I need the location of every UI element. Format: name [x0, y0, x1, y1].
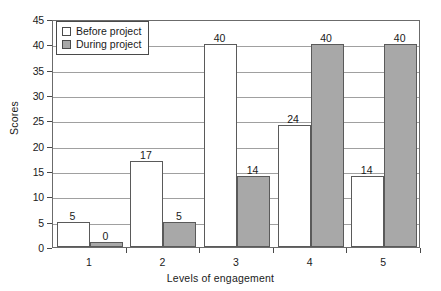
legend-item-during: During project	[62, 38, 141, 51]
bar-before-3	[204, 44, 237, 247]
y-tick-label: 30	[33, 91, 44, 101]
y-tick-label: 20	[33, 142, 44, 152]
y-tick-label: 15	[33, 167, 44, 177]
bar-value-label: 40	[197, 32, 243, 44]
x-axis-title: Levels of engagement	[0, 272, 441, 284]
y-tick-label: 45	[33, 15, 44, 25]
x-tick-mark	[346, 248, 347, 253]
chart-legend: Before project During project	[56, 21, 149, 55]
bar-before-4	[278, 125, 311, 247]
y-tick-mark	[47, 248, 52, 249]
bar-value-label: 14	[230, 164, 276, 176]
x-tick-mark	[273, 248, 274, 253]
x-tick-label-4: 4	[290, 256, 330, 268]
y-tick-label: 0	[38, 243, 44, 253]
bar-value-label: 40	[303, 32, 349, 44]
x-tick-mark	[126, 248, 127, 253]
bar-value-label: 5	[49, 210, 95, 222]
y-tick-label: 10	[33, 192, 44, 202]
x-tick-mark	[199, 248, 200, 253]
y-axis-title: Scores	[8, 88, 20, 148]
bar-value-label: 14	[344, 164, 390, 176]
legend-label-during: During project	[76, 39, 141, 50]
bar-before-5	[351, 176, 384, 247]
bar-during-5	[384, 44, 417, 247]
y-tick-label: 5	[38, 218, 44, 228]
y-axis: Scores 051015202530354045	[0, 0, 52, 291]
legend-swatch-before-icon	[62, 27, 71, 36]
x-tick-label-2: 2	[142, 256, 182, 268]
legend-swatch-during-icon	[62, 40, 71, 49]
y-tick-label: 40	[33, 40, 44, 50]
legend-item-before: Before project	[62, 25, 141, 38]
bar-value-label: 5	[156, 210, 202, 222]
bar-chart: Scores 051015202530354045 Levels of enga…	[0, 0, 441, 291]
x-tick-label-3: 3	[216, 256, 256, 268]
bar-value-label: 24	[270, 113, 316, 125]
y-tick-label: 25	[33, 116, 44, 126]
bar-during-2	[163, 222, 196, 247]
y-tick-label: 35	[33, 66, 44, 76]
legend-label-before: Before project	[76, 26, 141, 37]
bar-during-1	[90, 242, 123, 247]
bar-value-label: 40	[377, 32, 423, 44]
bar-value-label: 17	[123, 149, 169, 161]
bar-before-2	[130, 161, 163, 247]
x-tick-label-1: 1	[69, 256, 109, 268]
x-tick-label-5: 5	[363, 256, 403, 268]
bar-during-4	[311, 44, 344, 247]
x-tick-mark	[420, 248, 421, 253]
bar-during-3	[237, 176, 270, 247]
bar-value-label: 0	[82, 230, 128, 242]
